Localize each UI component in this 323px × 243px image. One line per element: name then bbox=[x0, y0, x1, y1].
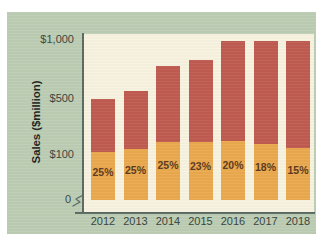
chart-figure: Sales ($million) 0$100$500$1,000 25%25%2… bbox=[0, 0, 323, 243]
x-tick-label-2016: 2016 bbox=[218, 215, 248, 227]
x-tick-label-2018: 2018 bbox=[283, 215, 313, 227]
x-tick-label-2014: 2014 bbox=[153, 215, 183, 227]
chart-panel: Sales ($million) 0$100$500$1,000 25%25%2… bbox=[7, 12, 316, 234]
x-tick-label-2013: 2013 bbox=[121, 215, 151, 227]
x-axis-ticks: 2012201320142015201620172018 bbox=[7, 12, 316, 234]
x-tick-label-2012: 2012 bbox=[88, 215, 118, 227]
x-tick-label-2017: 2017 bbox=[251, 215, 281, 227]
x-tick-label-2015: 2015 bbox=[186, 215, 216, 227]
